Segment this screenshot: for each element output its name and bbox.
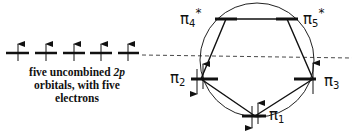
orbital-5 (118, 44, 139, 61)
orbital-3 (63, 44, 85, 61)
caption-line-1: five uncombined 2p (14, 66, 140, 79)
label-pi2: π2 (170, 69, 185, 88)
orbital-1 (6, 44, 29, 61)
label-pi4-star: π4* (180, 6, 201, 29)
orbital-2 (35, 44, 57, 61)
label-pi5-star: π5* (303, 6, 324, 29)
label-pi1: π1 (269, 106, 284, 125)
label-pi3: π3 (324, 72, 339, 91)
nonbonding-dashed-line (142, 55, 352, 58)
caption-line-3: electrons (14, 92, 140, 105)
mo-pi1 (242, 103, 266, 128)
orbitals-caption: five uncombined 2p orbitals, with five e… (14, 66, 140, 105)
mo-pi2 (191, 64, 218, 94)
uncombined-orbitals (6, 44, 139, 61)
orbital-4 (90, 44, 112, 61)
caption-line-2: orbitals, with five (14, 79, 140, 92)
